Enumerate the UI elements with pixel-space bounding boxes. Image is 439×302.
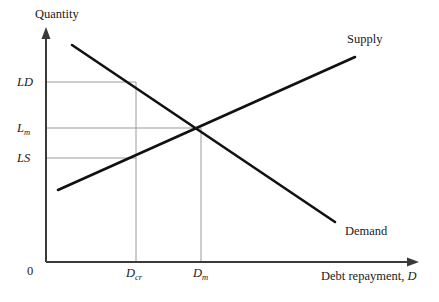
x-tick-Dcr-subscript: cr [135,272,142,282]
y-tick-Lm-main: L [17,121,24,135]
x-axis-title-symbol: D [407,269,416,283]
y-tick-label-LS: LS [17,152,30,165]
guide-lines [46,82,201,262]
demand-curve [72,45,335,222]
x-axis-title: Debt repayment, D [321,270,416,283]
x-tick-Dm-subscript: m [202,272,208,282]
y-tick-Lm-subscript: m [24,127,30,137]
x-tick-label-Dcr: Dcr [126,267,142,280]
y-axis-arrow-icon [42,27,51,39]
supply-demand-figure: Quantity LD Lm LS Dcr Dm 0 Debt repaymen… [0,0,439,302]
y-tick-LD-main: LD [17,75,33,89]
y-tick-label-LD: LD [17,76,33,89]
x-tick-Dcr-main: D [126,266,135,280]
y-tick-LS-main: LS [17,151,30,165]
demand-curve-label: Demand [345,225,387,238]
y-tick-label-Lm: Lm [17,122,30,135]
supply-curve-label: Supply [347,33,382,46]
supply-curve [58,57,355,190]
y-axis-title: Quantity [35,8,79,21]
x-tick-label-Dm: Dm [193,267,208,280]
origin-label: 0 [27,265,33,278]
x-axis-title-text: Debt repayment, [321,269,407,283]
x-axis-arrow-icon [407,258,419,267]
curves [58,45,355,222]
x-tick-Dm-main: D [193,266,202,280]
